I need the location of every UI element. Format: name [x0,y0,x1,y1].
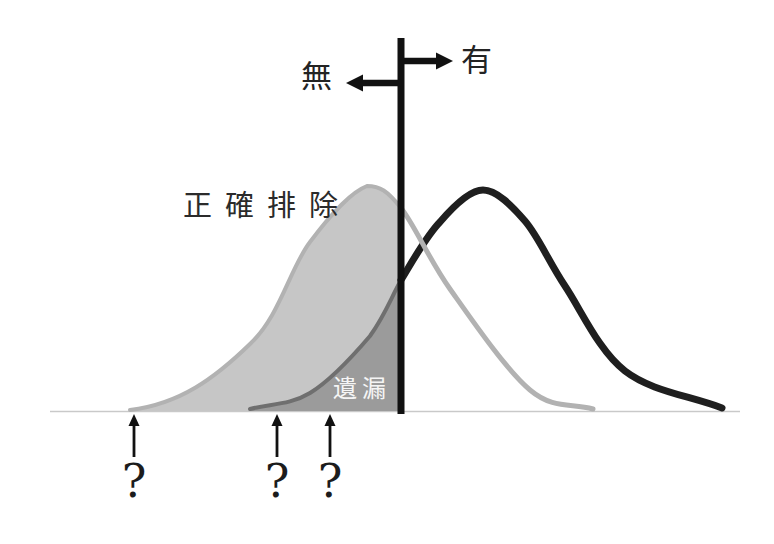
cutoff-arrow-icon-3 [325,414,336,457]
cutoff-arrow-head [272,414,283,426]
left-arrow-head [346,75,363,92]
right-arrow-icon [404,53,453,70]
miss-label: 遺漏 [333,377,391,401]
cutoff-arrow-head [129,414,140,426]
right-arrow-head [436,53,453,70]
cutoff-question-mark-3: ? [308,458,352,504]
cutoff-arrow-icon-1 [129,414,140,457]
left-arrow-icon [346,75,401,92]
absent-side-label: 無 [301,61,332,92]
correct-rejection-label: 正確排除 [183,192,351,221]
cutoff-question-mark-2: ? [255,458,299,504]
cutoff-question-mark-1: ? [112,458,156,504]
figure-canvas: 有 無 正確排除 遺漏 ? ? ? [0,0,774,544]
cutoff-arrow-icon-2 [272,414,283,457]
present-side-label: 有 [461,45,492,76]
present-distribution-curve [401,190,722,408]
cutoff-arrow-head [325,414,336,426]
